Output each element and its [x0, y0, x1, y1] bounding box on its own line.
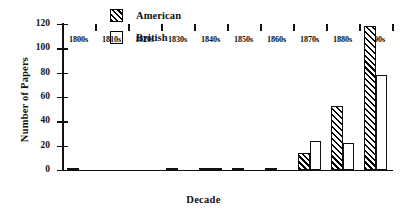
x-tick-label: 1880s — [333, 35, 352, 44]
bar-american-1830s[interactable] — [166, 168, 178, 170]
x-tick — [194, 24, 196, 31]
x-tick-label: 1830s — [168, 35, 187, 44]
bar-british-1890s[interactable] — [376, 75, 388, 170]
bar-british-1870s[interactable] — [310, 141, 322, 170]
y-axis-title: Number of Papers — [17, 46, 33, 152]
y-tick: 0 — [57, 170, 68, 171]
x-tick — [293, 24, 295, 31]
bar-american-1870s[interactable] — [298, 153, 310, 170]
x-tick-label: 1810s — [102, 35, 121, 44]
x-tick — [326, 24, 328, 31]
x-tick-label: 1840s — [201, 35, 220, 44]
x-tick — [392, 24, 394, 31]
y-tick-label: 60 — [41, 91, 51, 102]
bar-american-1840s[interactable] — [199, 168, 211, 170]
y-tick: 80 — [57, 73, 68, 74]
y-tick-label: 40 — [41, 115, 51, 126]
y-tick: 20 — [57, 146, 68, 147]
x-tick — [128, 24, 130, 31]
bar-american-1880s[interactable] — [331, 106, 343, 170]
x-tick — [62, 24, 64, 31]
x-tick — [260, 24, 262, 31]
x-tick-label: 1820s — [135, 35, 154, 44]
x-tick — [227, 24, 229, 31]
plot-area: 020406080100120 1800s1810s1820s1830s1840… — [62, 24, 392, 170]
legend-label-american: American — [136, 10, 181, 21]
bar-american-1800s[interactable] — [67, 168, 79, 170]
bar-british-1840s[interactable] — [211, 168, 223, 170]
chart-figure: American British 020406080100120 1800s18… — [0, 0, 407, 220]
x-tick — [161, 24, 163, 31]
legend-entry-american[interactable]: American — [110, 4, 250, 26]
hatched-swatch-icon — [110, 9, 123, 22]
x-axis-title: Decade — [0, 194, 407, 205]
y-tick: 60 — [57, 97, 68, 98]
x-tick-label: 1870s — [300, 35, 319, 44]
bar-american-1860s[interactable] — [265, 168, 277, 170]
x-tick-label: 1800s — [69, 35, 88, 44]
y-tick-label: 80 — [41, 67, 51, 78]
bar-british-1880s[interactable] — [343, 143, 355, 170]
x-tick — [95, 24, 97, 31]
bar-american-1890s[interactable] — [364, 26, 376, 170]
x-tick — [359, 24, 361, 31]
y-tick-label: 100 — [36, 42, 50, 53]
y-tick: 100 — [57, 48, 68, 49]
y-tick-label: 0 — [45, 164, 50, 175]
y-tick-label: 120 — [36, 18, 50, 29]
y-axis-title-text: Number of Papers — [20, 56, 31, 141]
y-tick-label: 20 — [41, 140, 51, 151]
x-tick-label: 1850s — [234, 35, 253, 44]
bar-american-1850s[interactable] — [232, 168, 244, 170]
y-tick: 40 — [57, 121, 68, 122]
x-tick-label: 1860s — [267, 35, 286, 44]
